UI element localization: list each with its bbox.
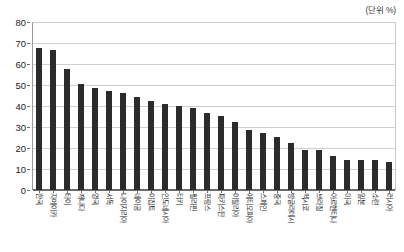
y-axis-tick-label: 0 <box>21 185 26 196</box>
x-axis-label-slot: 프랑스 <box>201 191 213 249</box>
gridline <box>33 106 395 107</box>
y-axis-tick-mark <box>27 22 30 23</box>
x-axis-label-slot: 캐나다 <box>75 191 87 249</box>
x-axis-tick-label: 인도네시아 <box>162 193 169 223</box>
x-axis-tick-label: 한국 <box>36 193 43 205</box>
x-axis-tick-label: 브라질 <box>316 193 323 211</box>
gridline <box>33 127 395 128</box>
x-axis-label-slot: 서독 <box>103 191 115 249</box>
x-axis-tick-label: 미국 <box>344 193 351 205</box>
y-axis-tick-mark <box>27 43 30 44</box>
x-axis-label-slot: 자메이카 <box>47 191 59 249</box>
x-axis-label-slot: 아르헨티나 <box>327 191 339 249</box>
x-axis-tick-label: 스페인 <box>260 193 267 211</box>
x-axis-tick-label: 영국 <box>92 193 99 205</box>
x-axis-tick-label: 이집트 <box>148 193 155 211</box>
x-axis-tick-label: 중국 <box>274 193 281 205</box>
x-axis-tick-label: 터키 <box>176 193 183 205</box>
y-axis-tick-mark <box>27 64 30 65</box>
y-axis-tick-label: 50 <box>15 80 26 91</box>
y-axis-tick-label: 60 <box>15 59 26 70</box>
x-axis-label-slot: 타이 <box>61 191 73 249</box>
y-axis-tick-label: 20 <box>15 143 26 154</box>
x-axis-tick-label: 이탈리아 <box>232 193 239 217</box>
plot-area <box>32 22 396 190</box>
x-axis-label-slot: 방글라데시 <box>285 191 297 249</box>
gridline <box>33 43 395 44</box>
x-axis-label-slot: 파키스탄 <box>215 191 227 249</box>
x-axis-label-slot: 브라질 <box>313 191 325 249</box>
y-axis-tick-mark <box>27 85 30 86</box>
gridline <box>33 85 395 86</box>
x-axis-tick-label: 에티오피아 <box>246 193 253 223</box>
x-axis-tick-label: 파키스탄 <box>218 193 225 217</box>
x-axis-label-slot: 러시아 <box>383 191 395 249</box>
x-axis-tick-label: 나이지리아 <box>120 193 127 223</box>
x-axis-tick-label: 서독 <box>106 193 113 205</box>
x-axis-tick-label: 러시아 <box>386 193 393 211</box>
y-axis-tick-label: 40 <box>15 101 26 112</box>
x-axis-tick-label: 프랑스 <box>204 193 211 211</box>
y-axis-tick-mark <box>27 106 30 107</box>
x-axis-labels: 한국자메이카타이캐나다영국서독나이지리아네이공이집트인도네시아터키필리핀프랑스파… <box>32 191 396 251</box>
y-axis-tick-label: 80 <box>15 17 26 28</box>
x-axis-label-slot: 필리핀 <box>187 191 199 249</box>
x-axis-tick-label: 방글라데시 <box>288 193 295 223</box>
x-axis-tick-label: 네이공 <box>134 193 141 211</box>
x-axis-label-slot: 스페인 <box>257 191 269 249</box>
y-axis-tick-mark <box>27 148 30 149</box>
x-axis-label-slot: 중국 <box>271 191 283 249</box>
x-axis-tick-label: 아르헨티나 <box>330 193 337 223</box>
y-axis-tick-mark <box>27 169 30 170</box>
x-axis-label-slot: 이탈리아 <box>229 191 241 249</box>
x-axis-label-slot: 나이지리아 <box>117 191 129 249</box>
y-axis-tick-mark <box>27 127 30 128</box>
gridline <box>33 148 395 149</box>
x-axis-tick-label: 캐나다 <box>78 193 85 211</box>
x-axis-tick-label: 멕시코 <box>302 193 309 211</box>
x-axis-tick-label: 필리핀 <box>190 193 197 211</box>
x-axis-label-slot: 네이공 <box>131 191 143 249</box>
gridline <box>33 64 395 65</box>
x-axis-label-slot: 영국 <box>89 191 101 249</box>
x-axis-tick-label: 소련 <box>372 193 379 205</box>
x-axis-label-slot: 미국 <box>341 191 353 249</box>
unit-caption: (단위 %) <box>366 3 396 15</box>
x-axis-label-slot: 터키 <box>173 191 185 249</box>
x-axis-tick-label: 자메이카 <box>50 193 57 217</box>
y-axis-tick-label: 70 <box>15 38 26 49</box>
y-axis: 01020304050607080 <box>0 22 30 190</box>
y-axis-tick-label: 30 <box>15 122 26 133</box>
x-axis-label-slot: 인도네시아 <box>159 191 171 249</box>
x-axis-label-slot: 에티오피아 <box>243 191 255 249</box>
y-axis-tick-mark <box>27 190 30 191</box>
x-axis-label-slot: 멕시코 <box>299 191 311 249</box>
x-axis-tick-label: 일본 <box>358 193 365 205</box>
x-axis-label-slot: 소련 <box>369 191 381 249</box>
x-axis-label-slot: 일본 <box>355 191 367 249</box>
bar-chart: (단위 %) 01020304050607080 한국자메이카타이캐나다영국서독… <box>0 0 404 252</box>
x-axis-tick-label: 타이 <box>64 193 71 205</box>
x-axis-label-slot: 이집트 <box>145 191 157 249</box>
y-axis-tick-label: 10 <box>15 164 26 175</box>
x-axis-label-slot: 한국 <box>33 191 45 249</box>
gridline <box>33 169 395 170</box>
gridline <box>33 22 395 23</box>
